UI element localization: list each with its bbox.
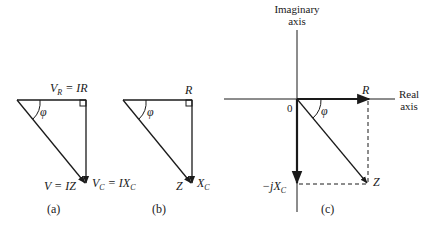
angle-phi-b: φ	[147, 106, 154, 118]
label-neg-jxc: −jXC	[262, 180, 286, 195]
complex-plane-c	[224, 30, 395, 212]
real-line2: axis	[392, 100, 426, 112]
caption-a: (a)	[47, 203, 60, 215]
label-z-b: Z	[176, 180, 183, 192]
label-z-c: Z	[373, 176, 380, 188]
label-vc-ixc: VC = IXC	[92, 177, 135, 192]
imag-line2: axis	[265, 15, 329, 27]
neg-j: −j	[262, 179, 273, 193]
vr-equation: = IR	[62, 81, 87, 95]
angle-phi-a: φ	[40, 106, 47, 118]
triangle-a	[17, 100, 86, 183]
real-line1: Real	[392, 88, 426, 100]
diagram-canvas	[0, 0, 429, 228]
neg-x-subscript: C	[281, 186, 286, 195]
triangle-b	[123, 100, 192, 183]
real-axis-label: Realaxis	[392, 88, 426, 112]
caption-c: (c)	[321, 203, 334, 215]
caption-b: (b)	[152, 203, 166, 215]
vc-equation: = IX	[105, 176, 130, 190]
label-xc-b: XC	[197, 177, 210, 192]
origin-label: 0	[287, 103, 293, 114]
label-r-b: R	[185, 84, 192, 96]
label-vr-ir: VR = IR	[50, 82, 88, 97]
imaginary-axis-label: Imaginaryaxis	[265, 3, 329, 27]
angle-phi-c: φ	[321, 105, 328, 117]
label-r-c: R	[362, 84, 369, 96]
imag-line1: Imaginary	[265, 3, 329, 15]
neg-x-symbol: X	[273, 179, 280, 193]
ixc-subscript: C	[130, 183, 135, 192]
label-v-iz: V = IZ	[44, 180, 76, 192]
xc-subscript: C	[204, 183, 209, 192]
